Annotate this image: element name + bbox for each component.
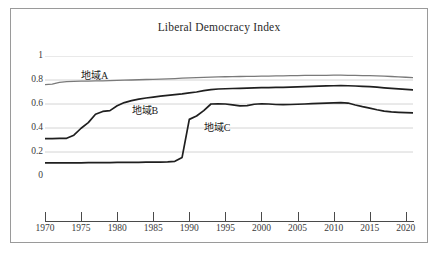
chart-frame: Liberal Democracy Index 00.20.40.60.81 1… (10, 8, 428, 243)
x-axis-tick-mark (225, 212, 226, 221)
y-axis-tick-label: 0.2 (13, 147, 43, 157)
series-label-3: 地域C (204, 119, 231, 134)
x-axis-tick-mark (406, 212, 407, 221)
x-axis-tick-mark (261, 212, 262, 221)
y-axis-tick-label: 0.6 (13, 99, 43, 109)
x-axis-tick-label: 1995 (205, 223, 245, 233)
x-axis-tick-label: 2000 (241, 223, 281, 233)
x-axis-tick-mark (153, 212, 154, 221)
x-axis-tick-label: 1970 (25, 223, 65, 233)
x-axis-tick-mark (81, 212, 82, 221)
x-axis-tick-label: 1985 (133, 223, 173, 233)
x-axis-tick-mark (334, 212, 335, 221)
chart-title: Liberal Democracy Index (11, 21, 427, 33)
x-axis-tick-mark (189, 212, 190, 221)
x-axis-tick-mark (370, 212, 371, 221)
series-label-2: 地域B (132, 102, 159, 117)
y-axis-tick-labels: 00.20.40.60.81 (11, 56, 43, 176)
x-axis-tick-label: 1975 (61, 223, 101, 233)
x-axis-tick-mark (117, 212, 118, 221)
x-axis-tick-mark (45, 212, 46, 221)
x-axis-tick-marks (45, 212, 414, 222)
series-label-1: 地域A (81, 67, 108, 82)
x-axis-tick-label: 2020 (386, 223, 426, 233)
y-axis-tick-label: 0.8 (13, 75, 43, 85)
y-axis-tick-label: 0.4 (13, 123, 43, 133)
x-axis-tick-mark (298, 212, 299, 221)
x-axis-tick-label: 2005 (278, 223, 318, 233)
x-axis-tick-label: 2010 (314, 223, 354, 233)
x-axis-tick-label: 1980 (97, 223, 137, 233)
y-axis-tick-label: 1 (13, 51, 43, 61)
x-axis-tick-label: 1990 (169, 223, 209, 233)
x-axis-tick-label: 2015 (350, 223, 390, 233)
y-axis-tick-label: 0 (13, 171, 43, 181)
x-axis-tick-labels: 1970197519801985199019952000200520102015… (11, 223, 427, 239)
